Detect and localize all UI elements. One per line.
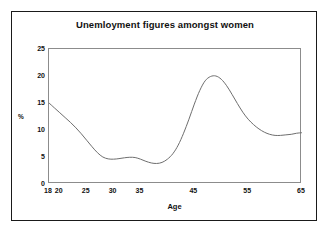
x-axis-label: Age — [48, 202, 301, 211]
y-axis-tick-5: 5 — [29, 153, 45, 160]
y-axis-tick-0: 0 — [29, 180, 45, 187]
y-axis-tick-15: 15 — [29, 99, 45, 106]
x-axis-tick-35: 35 — [128, 187, 152, 195]
x-axis-tick-20: 20 — [47, 187, 71, 195]
chart-figure: Unemloyment figures amongst women 051015… — [0, 0, 329, 236]
x-axis-tick-labels: 1820253035455565 — [48, 187, 301, 199]
line-series-unemployment-rate — [49, 49, 302, 184]
y-axis-tick-20: 20 — [29, 72, 45, 79]
y-axis-tick-25: 25 — [29, 45, 45, 52]
chart-title: Unemloyment figures amongst women — [12, 19, 318, 30]
y-axis-label: % — [18, 113, 24, 120]
figure-border: Unemloyment figures amongst women 051015… — [11, 11, 317, 221]
x-axis-tick-55: 55 — [235, 187, 259, 195]
y-axis-tick-labels: 0510152025 — [26, 48, 45, 183]
series-line-path — [49, 76, 302, 164]
x-axis-tick-25: 25 — [74, 187, 98, 195]
y-axis-tick-10: 10 — [29, 126, 45, 133]
x-axis-tick-65: 65 — [289, 187, 313, 195]
x-axis-tick-45: 45 — [181, 187, 205, 195]
x-axis-tick-30: 30 — [101, 187, 125, 195]
plot-area — [48, 48, 301, 183]
